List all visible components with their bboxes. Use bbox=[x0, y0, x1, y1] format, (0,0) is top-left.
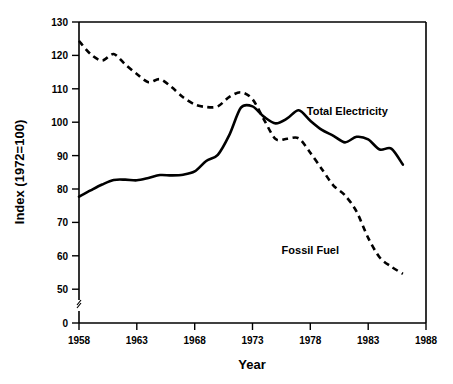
series-label-fossil-fuel: Fossil Fuel bbox=[282, 244, 339, 256]
y-tick-label-110: 110 bbox=[52, 84, 69, 95]
series-line-fossil-fuel bbox=[79, 41, 403, 274]
x-tick-label-1968: 1968 bbox=[184, 335, 207, 346]
series-label-total-electricity: Total Electricity bbox=[307, 105, 389, 117]
y-tick-label-100: 100 bbox=[51, 117, 68, 128]
y-tick-label-80: 80 bbox=[57, 184, 69, 195]
series-group bbox=[79, 41, 403, 274]
x-axis-title: Year bbox=[238, 357, 265, 372]
x-axis-ticks: 1958 1963 1968 1973 1978 1983 1988 bbox=[68, 323, 438, 346]
y-axis-break-marker bbox=[77, 300, 81, 308]
y-tick-label-70: 70 bbox=[57, 217, 69, 228]
y-tick-label-60: 60 bbox=[57, 251, 69, 262]
x-tick-label-1958: 1958 bbox=[68, 335, 91, 346]
y-axis-title: Index (1972=100) bbox=[12, 120, 27, 224]
line-chart: 130 120 110 100 90 80 70 60 50 0 1958 bbox=[0, 0, 453, 384]
y-tick-label-120: 120 bbox=[51, 50, 68, 61]
x-tick-label-1988: 1988 bbox=[415, 335, 438, 346]
series-line-total-electricity bbox=[79, 105, 403, 197]
x-tick-label-1973: 1973 bbox=[241, 335, 264, 346]
series-annotations: Total Electricity Fossil Fuel bbox=[282, 105, 389, 256]
x-tick-label-1983: 1983 bbox=[357, 335, 380, 346]
y-tick-label-90: 90 bbox=[57, 151, 69, 162]
y-axis-ticks: 130 120 110 100 90 80 70 60 50 0 bbox=[51, 17, 79, 329]
y-tick-label-130: 130 bbox=[51, 17, 68, 28]
chart-container: 130 120 110 100 90 80 70 60 50 0 1958 bbox=[0, 0, 453, 384]
y-tick-label-0: 0 bbox=[62, 318, 68, 329]
x-tick-label-1978: 1978 bbox=[299, 335, 322, 346]
x-tick-label-1963: 1963 bbox=[126, 335, 149, 346]
y-tick-label-50: 50 bbox=[57, 284, 69, 295]
